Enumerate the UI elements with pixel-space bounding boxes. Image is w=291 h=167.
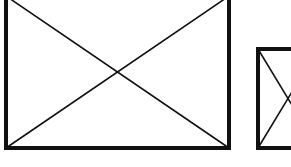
small-placeholder-diagonal-1 xyxy=(258,49,291,148)
large-placeholder-shape xyxy=(6,0,229,148)
small-placeholder-diagonal-2 xyxy=(258,49,291,148)
small-placeholder-shape xyxy=(258,49,291,148)
small-placeholder-border xyxy=(258,49,291,148)
diagram-canvas xyxy=(0,0,291,167)
